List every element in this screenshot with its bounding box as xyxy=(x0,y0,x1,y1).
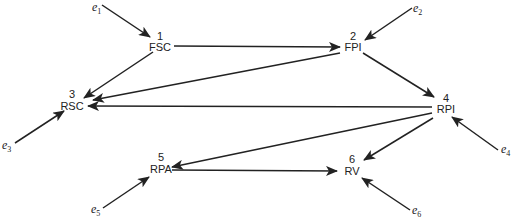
node-number: 3 xyxy=(69,88,75,100)
edge-fpi-to-rsc xyxy=(93,53,340,100)
path-diagram: 1 FSC 2 FPI 3 RSC 4 RPI 5 RPA 6 RV e1 e2… xyxy=(0,0,515,222)
edge-e6-to-rv xyxy=(362,178,410,210)
node-label: RV xyxy=(344,165,360,177)
node-label: RPI xyxy=(437,103,455,115)
error-term-e5: e5 xyxy=(91,202,100,218)
error-term-e2: e2 xyxy=(413,1,422,17)
diagram-svg: 1 FSC 2 FPI 3 RSC 4 RPI 5 RPA 6 RV e1 e2… xyxy=(0,0,515,222)
node-fsc: 1 FSC xyxy=(149,30,171,53)
edge-fpi-to-rpi xyxy=(363,53,434,97)
node-label: FPI xyxy=(344,41,361,53)
edge-rpi-to-rsc xyxy=(88,106,432,107)
node-rsc: 3 RSC xyxy=(60,88,83,112)
node-number: 6 xyxy=(349,153,355,165)
error-term-e3: e3 xyxy=(2,138,11,154)
edge-rpa-to-rv xyxy=(172,170,337,171)
node-label: FSC xyxy=(149,41,171,53)
node-rpi: 4 RPI xyxy=(437,92,455,115)
error-term-e1: e1 xyxy=(92,0,101,16)
node-fpi: 2 FPI xyxy=(344,30,361,53)
node-rv: 6 RV xyxy=(344,153,360,177)
edge-e4-to-rpi xyxy=(452,117,498,150)
node-rpa: 5 RPA xyxy=(150,151,172,175)
edge-e3-to-rsc xyxy=(15,111,64,143)
node-number: 5 xyxy=(158,151,164,163)
edge-e1-to-fsc xyxy=(102,5,150,37)
edge-e2-to-fpi xyxy=(365,8,412,40)
error-term-e4: e4 xyxy=(501,142,510,158)
edge-rpi-to-rpa xyxy=(172,113,432,167)
edge-e5-to-rpa xyxy=(103,177,149,208)
edge-fsc-to-fpi xyxy=(174,46,340,47)
error-term-e6: e6 xyxy=(412,203,421,219)
node-label: RPA xyxy=(150,163,172,175)
node-label: RSC xyxy=(60,100,83,112)
